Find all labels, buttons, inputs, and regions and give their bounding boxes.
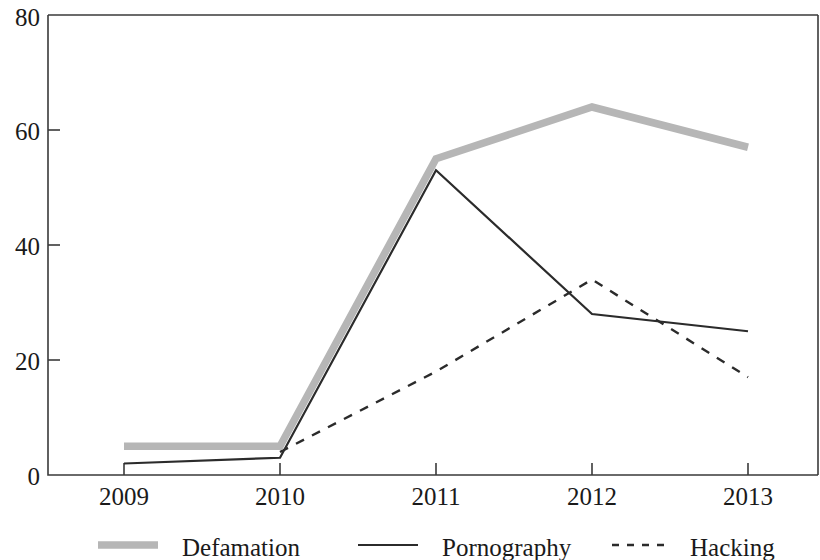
x-tick-label-2013: 2013	[723, 483, 773, 510]
axis-frame	[48, 15, 818, 475]
legend-label-defamation: Defamation	[182, 534, 301, 560]
x-tick-label-2009: 2009	[99, 483, 149, 510]
x-axis-labels: 2009 2010 2011 2012 2013	[99, 483, 773, 510]
y-tick-marks	[48, 130, 60, 360]
series-line-defamation	[124, 107, 748, 446]
chart-legend: Defamation Pornography Hacking	[98, 534, 775, 560]
series-line-pornography	[124, 170, 748, 463]
y-tick-label-40: 40	[15, 233, 40, 260]
y-tick-label-60: 60	[15, 118, 40, 145]
x-tick-label-2010: 2010	[255, 483, 305, 510]
x-tick-label-2012: 2012	[567, 483, 617, 510]
y-axis-labels: 80 60 40 20 0	[15, 4, 40, 490]
x-tick-label-2011: 2011	[411, 483, 460, 510]
y-tick-label-0: 0	[28, 463, 41, 490]
data-series-group	[124, 107, 748, 464]
series-line-hacking	[280, 280, 748, 453]
line-chart: 80 60 40 20 0 2009 2010 2011 2012 2013	[0, 0, 820, 560]
y-tick-label-80: 80	[15, 4, 40, 31]
chart-canvas: 80 60 40 20 0 2009 2010 2011 2012 2013	[0, 0, 820, 560]
x-tick-marks	[124, 463, 748, 475]
legend-label-pornography: Pornography	[442, 534, 572, 560]
legend-label-hacking: Hacking	[690, 534, 775, 560]
y-tick-label-20: 20	[15, 348, 40, 375]
